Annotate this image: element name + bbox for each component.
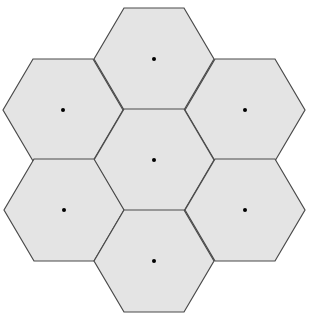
cell-center-dot bbox=[152, 158, 156, 162]
cell-center-dot bbox=[61, 108, 65, 112]
cell-center-dot bbox=[152, 259, 156, 263]
cell-center-dot bbox=[243, 208, 247, 212]
cell-center-dot bbox=[62, 208, 66, 212]
hex-cell-diagram bbox=[0, 0, 312, 317]
cell-center-dot bbox=[152, 57, 156, 61]
cell-center-dot bbox=[243, 108, 247, 112]
